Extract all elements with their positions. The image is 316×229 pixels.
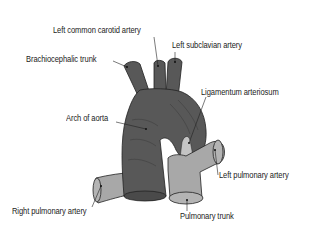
label-ligamentum-arteriosum: Ligamentum arteriosum (201, 87, 279, 97)
aorta-diagram (0, 0, 316, 229)
label-arch-of-aorta: Arch of aorta (66, 113, 108, 123)
label-right-pulmonary-artery: Right pulmonary artery (12, 206, 87, 216)
label-left-pulmonary-artery: Left pulmonary artery (219, 170, 289, 180)
label-left-subclavian-artery: Left subclavian artery (172, 40, 242, 50)
label-left-common-carotid-artery: Left common carotid artery (53, 25, 141, 35)
label-pulmonary-trunk: Pulmonary trunk (180, 211, 234, 221)
label-brachiocephalic-trunk: Brachiocephalic trunk (26, 54, 96, 64)
